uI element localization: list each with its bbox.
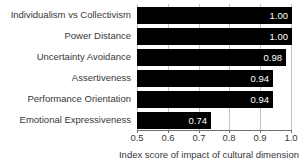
bar-chart: Individualism vs CollectivismPower Dista…	[0, 0, 308, 163]
bar-value-label: 0.74	[189, 112, 212, 129]
bar-value-label: 0.98	[264, 49, 287, 66]
category-label: Individualism vs Collectivism	[0, 4, 131, 25]
category-label: Emotional Expressiveness	[0, 109, 131, 130]
x-tick-label: 0.9	[245, 132, 275, 143]
category-label: Uncertainty Avoidance	[0, 46, 131, 67]
x-tick-label: 0.7	[184, 132, 214, 143]
tick-mark-1.0	[291, 130, 292, 133]
bar-value-label: 0.94	[251, 70, 274, 87]
tick-mark-0.7	[199, 130, 200, 133]
x-axis-title: Index score of impact of cultural dimens…	[104, 149, 308, 160]
category-label: Performance Orientation	[0, 88, 131, 109]
category-axis: Individualism vs CollectivismPower Dista…	[0, 4, 131, 130]
bar: 0.94	[137, 70, 273, 87]
x-tick-label: 0.8	[214, 132, 244, 143]
x-tick-label: 0.6	[153, 132, 183, 143]
tick-mark-0.6	[168, 130, 169, 133]
tick-mark-0.9	[260, 130, 261, 133]
bar: 0.98	[137, 49, 286, 66]
bar: 0.74	[137, 112, 211, 129]
tick-mark-0.5	[137, 130, 138, 133]
bar: 0.94	[137, 91, 273, 108]
bar-value-label: 0.94	[251, 91, 274, 108]
plot-area: 1.001.000.980.940.940.74	[137, 4, 292, 131]
x-tick-label: 0.5	[122, 132, 152, 143]
category-label: Power Distance	[0, 25, 131, 46]
tick-mark-0.8	[229, 130, 230, 133]
bar-value-label: 1.00	[270, 28, 293, 45]
bar: 1.00	[137, 7, 292, 24]
category-label: Assertiveness	[0, 67, 131, 88]
x-tick-label: 1.0	[276, 132, 306, 143]
bar-value-label: 1.00	[270, 7, 293, 24]
bar: 1.00	[137, 28, 292, 45]
